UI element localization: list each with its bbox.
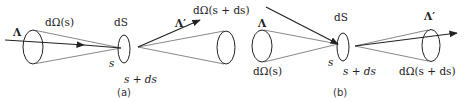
- outgoing-beam-arrow-a: [138, 20, 200, 47]
- surface-element-b: [337, 33, 349, 61]
- caption-b: (b): [333, 87, 347, 98]
- surface-label-a: dS: [114, 16, 128, 28]
- incoming-beam-arrow-a: [5, 40, 121, 48]
- panel-b: Λ dΩ(s) dS s s + ds Λ′ dΩ(s + ds) (b): [252, 7, 457, 98]
- surface-label-b: dS: [334, 11, 348, 23]
- outgoing-cone-a: [138, 31, 235, 64]
- panel-a: Λ dΩ(s) dS s s + ds Λ′ dΩ(s + ds) (a): [5, 4, 250, 98]
- incoming-solid-angle-label-b: dΩ(s): [253, 65, 282, 77]
- radiance-beam-diagram: Λ dΩ(s) dS s s + ds Λ′ dΩ(s + ds) (a) Λ …: [0, 0, 466, 102]
- outgoing-solid-angle-label-a: dΩ(s + ds): [193, 4, 250, 16]
- point-s-ds-label-b: s + ds: [343, 65, 377, 77]
- point-s-label-b: s: [328, 56, 334, 68]
- incoming-solid-angle-label-a: dΩ(s): [45, 16, 74, 28]
- outgoing-solid-angle-label-b: dΩ(s + ds): [399, 65, 456, 77]
- incoming-cone-b: [252, 30, 338, 62]
- outgoing-beam-label-a: Λ′: [174, 17, 186, 29]
- caption-a: (a): [117, 87, 131, 98]
- incoming-beam-label-a: Λ: [12, 26, 22, 38]
- point-s-ds-label-a: s + ds: [124, 73, 158, 85]
- incoming-beam-arrow-b: [266, 7, 338, 44]
- outgoing-beam-label-b: Λ′: [423, 10, 435, 22]
- incoming-beam-label-b: Λ: [257, 17, 267, 29]
- surface-element-a: [118, 35, 130, 63]
- point-s-label-a: s: [109, 57, 115, 69]
- outgoing-cone-b: [355, 30, 440, 62]
